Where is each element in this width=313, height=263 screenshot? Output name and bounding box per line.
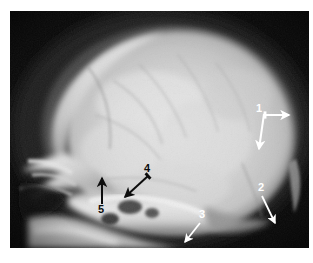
figure-root: 1 2 3 4 5 (0, 0, 313, 263)
annotation-label-3: 3 (199, 209, 205, 220)
annotation-label-4: 4 (144, 163, 150, 174)
annotation-label-5: 5 (98, 204, 104, 215)
annotation-label-2: 2 (258, 182, 264, 193)
radiograph-plate: 1 2 3 4 5 (10, 11, 309, 248)
xray-image (10, 11, 309, 248)
corner-vignette (10, 11, 309, 248)
annotation-label-1: 1 (256, 103, 262, 114)
